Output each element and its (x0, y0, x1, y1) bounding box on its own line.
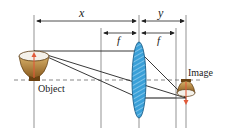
image-bowl-icon (177, 79, 195, 105)
image-label: Image (188, 67, 214, 78)
f-right-label: f (157, 34, 162, 46)
object-bowl-icon (19, 51, 49, 81)
dimension-arrows (36, 19, 184, 35)
lens-diagram: x y f f Object Image (0, 0, 231, 138)
x-label: x (78, 6, 85, 20)
reference-lines (34, 15, 186, 128)
convex-lens (132, 42, 146, 118)
f-left-label: f (117, 34, 122, 46)
object-label: Object (38, 83, 65, 94)
y-label: y (157, 6, 164, 20)
